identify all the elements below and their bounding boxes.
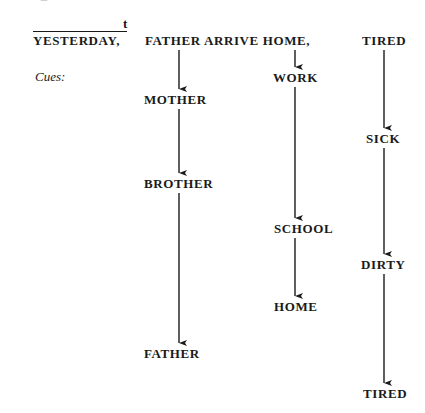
cue-arrows: [0, 0, 425, 413]
